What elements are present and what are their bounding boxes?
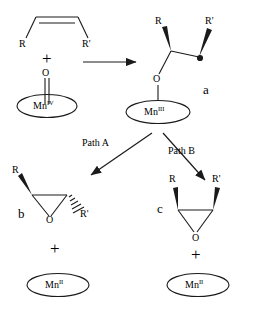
species-label-c: c [157,202,163,215]
intermediate-right-substituent: R' [205,16,213,26]
mn2-right-oxidation-state: II [199,278,203,285]
product-b-left-substituent: R [12,165,19,175]
cis-alkene-structure [26,17,88,38]
mn2-left-oxidation-state: II [59,278,63,285]
mn4-label: MnIV [33,100,54,111]
mn3-symbol: Mn [144,106,158,117]
radical-dot [197,55,203,61]
reaction-scheme: R R' + O MnIV R R' O MnIII a Path A Path… [0,0,255,309]
mn3-label: MnIII [144,106,164,117]
product-b-structure [18,173,89,297]
product-b-plus-sign: + [50,240,60,257]
product-c-plus-sign: + [191,246,201,263]
species-label-a: a [203,83,209,96]
mn4-symbol: Mn [33,100,47,111]
mn2-right-label: MnII [185,279,203,290]
scheme-drawing-layer [0,0,255,309]
mn3-oxidation-state: III [158,105,165,112]
product-c-oxygen-label: O [192,233,199,243]
path-b-label: Path B [168,146,195,156]
alkene-right-substituent: R' [82,39,90,49]
mn2-left-symbol: Mn [45,279,59,290]
intermediate-left-substituent: R [155,16,162,26]
species-label-b: b [18,207,25,220]
mn4-oxidation-state: IV [47,99,54,106]
intermediate-a-structure [126,26,212,124]
reactant-plus-sign: + [42,50,52,67]
mn2-right-symbol: Mn [185,279,199,290]
product-c-right-substituent: R' [212,174,220,184]
product-b-oxygen-label: O [46,215,53,225]
product-b-right-substituent: R' [80,209,88,219]
oxo-oxygen-label: O [42,68,49,78]
mn2-left-label: MnII [45,279,63,290]
mn4-oxo-structure [17,78,77,118]
intermediate-oxygen-label: O [153,74,160,84]
product-c-left-substituent: R [169,174,176,184]
alkene-left-substituent: R [19,39,26,49]
path-a-label: Path A [82,138,109,148]
